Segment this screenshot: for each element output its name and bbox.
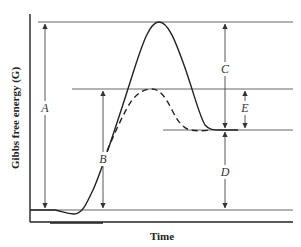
label-B: B xyxy=(99,152,107,166)
label-C: C xyxy=(221,62,230,76)
x-axis-title: Time xyxy=(150,230,174,242)
label-A: A xyxy=(40,101,49,115)
label-E: E xyxy=(240,101,249,115)
y-axis-title: Gibbs free energy (G) xyxy=(9,67,22,169)
label-D: D xyxy=(220,165,230,179)
curve-uncatalyzed xyxy=(30,22,238,214)
curve-catalyzed xyxy=(103,89,210,160)
energy-diagram: A B C E D Time Gibbs free energy (G) xyxy=(0,0,301,247)
